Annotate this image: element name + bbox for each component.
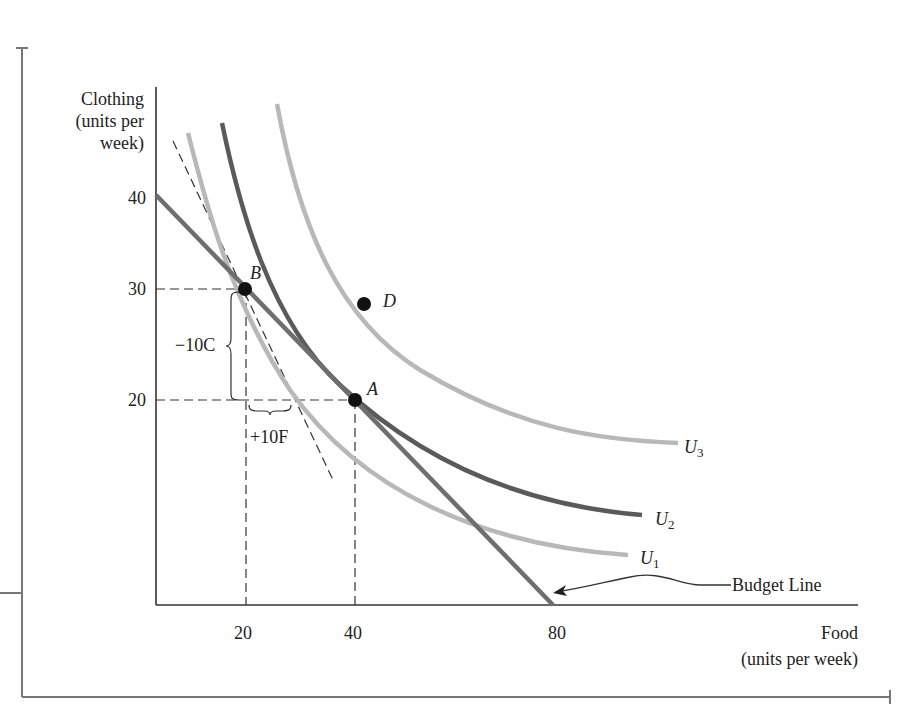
delta-clothing-text: −10C: [175, 335, 215, 355]
u1-curve: [188, 133, 628, 555]
u3-label-sub: 3: [697, 445, 704, 460]
point-b-marker: [238, 282, 252, 296]
x-tick-20: 20: [234, 622, 252, 644]
y-axis-title-line1: Clothing: [60, 88, 144, 110]
x-axis-title: Food (units per week): [680, 622, 858, 670]
u2-label-text: U: [655, 509, 668, 529]
delta-food-text: +10F: [250, 427, 288, 447]
y-axis-title: Clothing (units per week): [60, 88, 144, 154]
u3-curve: [277, 104, 678, 443]
u3-label: U3: [684, 436, 704, 464]
delta-food-label: +10F: [250, 426, 288, 448]
u1-label-text: U: [640, 548, 653, 568]
u2-curve: [222, 123, 642, 515]
point-a-marker: [348, 393, 362, 407]
delta-clothing-label: −10C: [175, 334, 215, 356]
brace-minus-10c: [226, 292, 240, 400]
point-b-label: B: [250, 262, 261, 284]
u2-label-sub: 2: [668, 517, 675, 532]
point-a-label: A: [367, 378, 378, 400]
budget-line-arrow: [556, 575, 731, 592]
x-tick-80: 80: [548, 622, 566, 644]
u2-label: U2: [655, 508, 675, 536]
budget-line-label: Budget Line: [732, 574, 821, 596]
brace-plus-10f: [249, 405, 291, 415]
x-axis-title-line2: (units per week): [680, 648, 858, 670]
y-tick-20: 20: [110, 389, 146, 411]
u3-label-text: U: [684, 437, 697, 457]
y-tick-40: 40: [110, 187, 146, 209]
x-axis-title-line1: Food: [680, 622, 858, 644]
point-d-label: D: [383, 290, 396, 312]
u1-label-sub: 1: [653, 556, 660, 571]
u1-label: U1: [640, 547, 660, 575]
point-d-marker: [357, 297, 371, 311]
y-axis-title-line2: (units per: [60, 110, 144, 132]
y-axis-title-line3: week): [60, 132, 144, 154]
x-tick-40: 40: [344, 622, 362, 644]
y-tick-30: 30: [110, 278, 146, 300]
